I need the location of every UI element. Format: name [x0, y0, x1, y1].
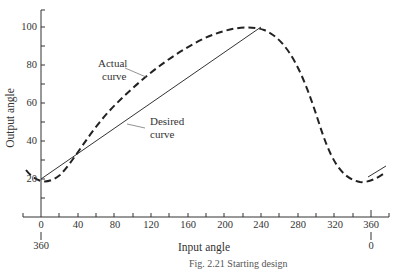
- y-tick-label: 40: [7, 135, 37, 146]
- x-tick-label: 120: [136, 219, 166, 230]
- y-axis-ticks: [41, 10, 45, 198]
- x-tick-label: 200: [210, 219, 240, 230]
- x-axis-title: Input angle: [178, 241, 230, 253]
- actual-curve-line: [26, 27, 386, 182]
- annotation-desired-curve-line1: Desired: [150, 115, 184, 127]
- annotation-actual-curve-line1: Actual: [98, 57, 127, 69]
- figure-caption: Fig. 2.21 Starting design: [189, 258, 288, 270]
- x-tick-label: 280: [283, 219, 313, 230]
- x-tick-label: 360: [356, 219, 386, 230]
- x-tick-label: 240: [246, 219, 276, 230]
- x-axis-ticks: [23, 210, 389, 217]
- y-tick-label: 60: [7, 97, 37, 108]
- actual-pointer: [125, 68, 146, 77]
- x-tick-label: 80: [100, 219, 130, 230]
- x-tick-label: 160: [173, 219, 203, 230]
- annotation-actual-curve-line2: curve: [102, 70, 126, 82]
- desired-curve-end-segment: [368, 166, 386, 177]
- y-tick-label: 80: [7, 59, 37, 70]
- y-tick-label: 100: [7, 21, 37, 32]
- annotation-desired-curve-line2: curve: [150, 128, 174, 140]
- x-secondary-label-left: 360: [26, 240, 56, 251]
- y-tick-label: 20: [7, 173, 37, 184]
- x-secondary-label-right: 0: [356, 240, 386, 251]
- desired-curve-line: [41, 27, 261, 179]
- x-tick-label: 320: [320, 219, 350, 230]
- x-tick-label: 40: [63, 219, 93, 230]
- desired-pointer: [127, 124, 145, 128]
- x-tick-label: 0: [26, 219, 56, 230]
